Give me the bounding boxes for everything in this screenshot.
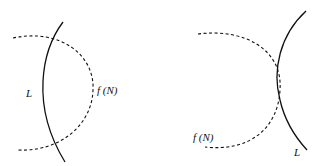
right-label-L: L <box>293 146 300 158</box>
left-label-f-N: f (N) <box>97 84 118 97</box>
right-label-f-N: f (N) <box>193 131 214 144</box>
left-panel: L f (N) <box>13 22 118 162</box>
left-dashed-curve-f-N <box>13 36 93 150</box>
left-solid-curve-L <box>43 22 65 162</box>
right-solid-curve-L <box>277 11 307 150</box>
right-panel: f (N) L <box>193 11 307 158</box>
diagram-canvas: L f (N) f (N) L <box>0 0 320 166</box>
left-label-L: L <box>25 87 32 99</box>
